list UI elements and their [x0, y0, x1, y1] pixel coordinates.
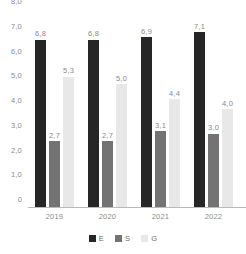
bar-value-label: 3,0 — [208, 123, 219, 132]
y-axis-tick: 1,0 — [11, 170, 22, 179]
y-axis-tick: 4,0 — [11, 96, 22, 105]
bar-value-label: 3,1 — [155, 121, 166, 130]
bar-groups: 6,8 2,7 5,3 6,8 — [28, 10, 240, 208]
bar-value-label: 2,7 — [49, 131, 60, 140]
y-axis-tick: 7,0 — [11, 21, 22, 30]
bar-group: 7,1 3,0 4,0 — [194, 10, 233, 208]
legend-label: G — [151, 234, 157, 243]
bar-g[interactable]: 5,3 — [63, 77, 74, 208]
y-axis-tick: 6,0 — [11, 46, 22, 55]
x-axis-tick-2020: 2020 — [84, 212, 132, 221]
bar-group: 6,8 2,7 5,3 — [35, 10, 74, 208]
y-axis-tick: 3,0 — [11, 120, 22, 129]
bar-e[interactable]: 6,8 — [88, 40, 99, 208]
esg-bar-chart: 0 1,0 2,0 3,0 4,0 5,0 6,0 7,0 8,0 6,8 2,… — [0, 0, 246, 254]
x-axis-tick-2019: 2019 — [31, 212, 79, 221]
y-axis-tick: 8,0 — [11, 0, 22, 6]
bar-g[interactable]: 4,4 — [169, 99, 180, 208]
bar-wrap: 5,3 — [63, 10, 74, 208]
legend-swatch-icon — [89, 235, 96, 242]
bar-group: 6,8 2,7 5,0 — [88, 10, 127, 208]
bar-wrap: 4,0 — [222, 10, 233, 208]
bar-value-label: 6,8 — [88, 29, 99, 38]
bar-e[interactable]: 6,8 — [35, 40, 46, 208]
x-axis-tick-2021: 2021 — [137, 212, 185, 221]
bar-g[interactable]: 4,0 — [222, 109, 233, 208]
bar-value-label: 5,3 — [63, 66, 74, 75]
bar-value-label: 6,8 — [35, 29, 46, 38]
bar-group: 6,9 3,1 4,4 — [141, 10, 180, 208]
plot-area: 0 1,0 2,0 3,0 4,0 5,0 6,0 7,0 8,0 6,8 2,… — [28, 10, 240, 208]
bar-e[interactable]: 7,1 — [194, 32, 205, 208]
bar-wrap: 3,1 — [155, 10, 166, 208]
bar-value-label: 2,7 — [102, 131, 113, 140]
y-axis-tick: 2,0 — [11, 145, 22, 154]
bar-s[interactable]: 2,7 — [49, 141, 60, 208]
chart-legend: E S G — [0, 234, 246, 243]
y-axis-tick: 0 — [18, 195, 22, 204]
bar-e[interactable]: 6,9 — [141, 37, 152, 208]
bar-value-label: 7,1 — [194, 22, 205, 31]
bar-value-label: 5,0 — [116, 74, 127, 83]
bar-g[interactable]: 5,0 — [116, 84, 127, 208]
bar-wrap: 6,8 — [35, 10, 46, 208]
y-axis-tick: 5,0 — [11, 71, 22, 80]
legend-item-s[interactable]: S — [115, 234, 130, 243]
bar-wrap: 7,1 — [194, 10, 205, 208]
x-axis-labels: 2019 2020 2021 2022 — [28, 212, 240, 221]
bar-value-label: 4,4 — [169, 89, 180, 98]
bar-value-label: 6,9 — [141, 27, 152, 36]
bar-s[interactable]: 2,7 — [102, 141, 113, 208]
legend-swatch-icon — [115, 235, 122, 242]
legend-label: E — [99, 234, 104, 243]
bar-wrap: 4,4 — [169, 10, 180, 208]
bar-wrap: 2,7 — [49, 10, 60, 208]
bar-wrap: 5,0 — [116, 10, 127, 208]
x-axis-line — [28, 207, 246, 208]
bar-value-label: 4,0 — [222, 99, 233, 108]
x-axis-tick-2022: 2022 — [190, 212, 238, 221]
legend-item-g[interactable]: G — [141, 234, 157, 243]
bar-wrap: 6,9 — [141, 10, 152, 208]
bar-wrap: 2,7 — [102, 10, 113, 208]
legend-item-e[interactable]: E — [89, 234, 104, 243]
bar-wrap: 6,8 — [88, 10, 99, 208]
bar-wrap: 3,0 — [208, 10, 219, 208]
legend-label: S — [125, 234, 130, 243]
bar-s[interactable]: 3,1 — [155, 131, 166, 208]
legend-swatch-icon — [141, 235, 148, 242]
bar-s[interactable]: 3,0 — [208, 134, 219, 208]
